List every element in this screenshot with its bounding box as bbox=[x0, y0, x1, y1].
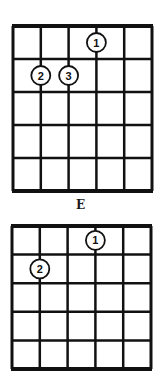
finger-marker: 2 bbox=[30, 259, 49, 278]
finger-number: 1 bbox=[93, 37, 99, 49]
finger-number: 3 bbox=[66, 70, 72, 82]
chord-diagram-second: 12 bbox=[0, 200, 161, 388]
finger-number: 2 bbox=[38, 70, 44, 82]
finger-number: 1 bbox=[92, 234, 98, 246]
chord-diagram-e: 123 bbox=[0, 0, 161, 200]
finger-number: 2 bbox=[37, 263, 43, 275]
fretboard-grid: 123 bbox=[0, 0, 161, 200]
fretboard-grid: 12 bbox=[0, 200, 161, 388]
finger-marker: 1 bbox=[87, 33, 106, 52]
finger-marker: 3 bbox=[59, 66, 78, 85]
finger-marker: 2 bbox=[31, 66, 50, 85]
finger-marker: 1 bbox=[86, 231, 105, 250]
